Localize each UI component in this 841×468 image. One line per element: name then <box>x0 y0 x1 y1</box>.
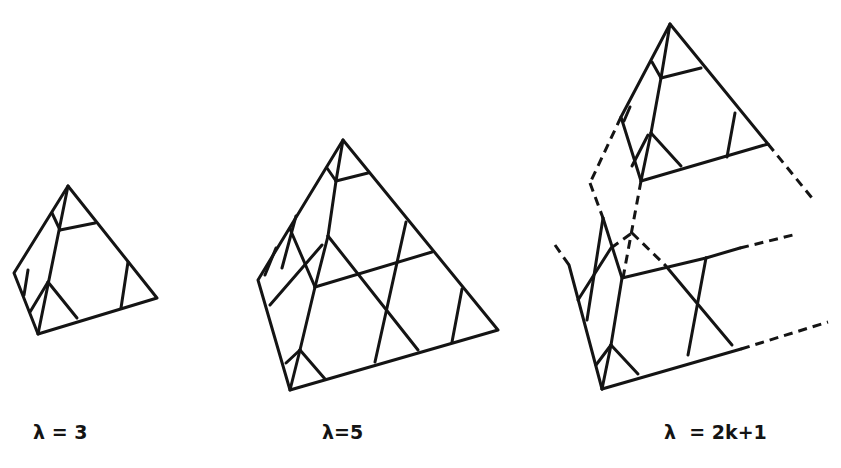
tetrahedron-lambda-5 <box>258 140 498 390</box>
tetrahedra-diagram <box>0 0 841 468</box>
tetrahedron-lambda-2k1 <box>555 24 828 389</box>
label-lambda-5: λ=5 <box>322 421 363 443</box>
tetrahedron-lambda-3 <box>14 186 157 334</box>
top-block-outline <box>621 24 768 181</box>
label-lambda-3: λ = 3 <box>33 421 87 443</box>
label-lambda-2k1: λ = 2k+1 <box>664 421 767 443</box>
outline-edge <box>14 186 157 334</box>
lower-block-top-edge <box>603 218 706 278</box>
